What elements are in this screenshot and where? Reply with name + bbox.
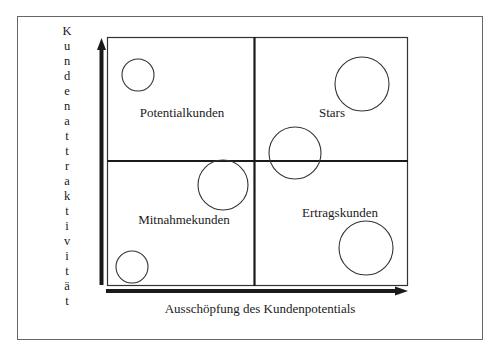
x-axis-arrow-head — [395, 287, 408, 296]
y-axis-letter: e — [64, 84, 70, 99]
y-axis-letter: a — [64, 174, 70, 189]
y-axis-letter: t — [65, 144, 68, 159]
quadrant-label-mitnahmekunden: Mitnahmekunden — [138, 212, 230, 228]
y-axis-letter: r — [65, 159, 69, 174]
customer-circle — [116, 251, 148, 283]
quadrant-label-stars: Stars — [319, 105, 345, 121]
y-axis-letter: u — [64, 39, 70, 54]
customer-circle — [269, 127, 321, 179]
y-axis-letter: a — [64, 114, 70, 129]
customer-circle — [198, 160, 248, 210]
y-axis-letter: t — [65, 129, 68, 144]
x-axis-label: Ausschöpfung des Kundenpotentials — [165, 301, 356, 317]
y-axis-letter: t — [65, 264, 68, 279]
y-axis-label: Kundenattraktivität — [60, 24, 74, 309]
y-axis-letter: t — [65, 204, 68, 219]
quadrant-label-potentialkunden: Potentialkunden — [140, 105, 225, 121]
customer-circle — [335, 57, 389, 111]
y-axis-letter: k — [64, 189, 70, 204]
quadrant-label-ertragskunden: Ertragskunden — [302, 205, 378, 221]
y-axis-letter: i — [65, 219, 68, 234]
y-axis-letter: K — [62, 24, 71, 39]
y-axis-letter: i — [65, 249, 68, 264]
y-axis-letter: v — [64, 234, 70, 249]
customer-circle — [122, 59, 154, 91]
y-axis-letter: n — [64, 54, 70, 69]
y-axis-letter: ä — [64, 279, 70, 294]
customer-circle — [339, 221, 393, 275]
y-axis-letter: n — [64, 99, 70, 114]
y-axis-letter: t — [65, 294, 68, 309]
y-axis-arrow-head — [97, 38, 106, 50]
y-axis-letter: d — [64, 69, 70, 84]
